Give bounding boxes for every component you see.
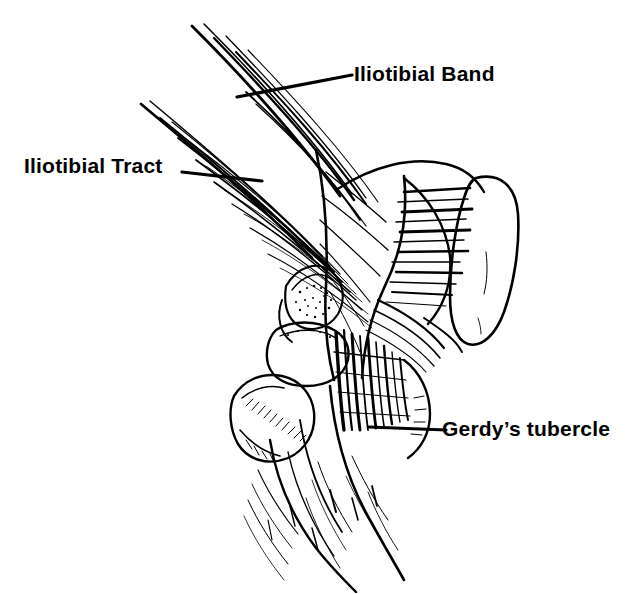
label-gerdys-tubercle: Gerdy’s tubercle <box>442 418 610 439</box>
label-iliotibial-tract: Iliotibial Tract <box>24 155 163 176</box>
canvas-background <box>0 0 641 594</box>
label-iliotibial-band: Iliotibial Band <box>354 63 495 84</box>
anatomical-illustration: Iliotibial Band Iliotibial Tract Gerdy’s… <box>0 0 641 594</box>
knee-anatomy-drawing <box>0 0 641 594</box>
